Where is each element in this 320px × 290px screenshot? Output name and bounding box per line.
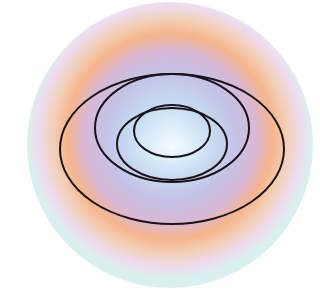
nested-ellipses-diagram bbox=[0, 0, 320, 290]
